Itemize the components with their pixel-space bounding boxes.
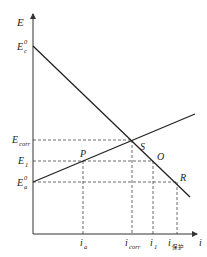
svg-text:a: a — [24, 183, 27, 190]
svg-text:a: a — [84, 243, 87, 250]
x-label-ia: i a — [80, 237, 87, 250]
svg-text:i: i — [125, 237, 128, 248]
x-label-iprot: i 保护 — [168, 237, 184, 251]
y-axis-label: E — [16, 16, 24, 28]
svg-text:corr: corr — [19, 140, 31, 147]
point-o-label: O — [157, 151, 164, 162]
cathodic-polarization-line — [33, 46, 190, 197]
svg-text:corr: corr — [129, 243, 141, 250]
svg-text:1: 1 — [25, 161, 28, 168]
svg-text:i: i — [80, 237, 83, 248]
polarization-diagram: E i E c 0 E corr E 1 E a 0 i a i corr i … — [0, 0, 207, 257]
point-s-label: S — [140, 141, 145, 152]
svg-text:保护: 保护 — [172, 243, 184, 251]
svg-text:i: i — [150, 237, 153, 248]
point-r-label: R — [179, 172, 186, 183]
x-axis-label: i — [199, 237, 202, 248]
y-label-ea0: E a 0 — [16, 174, 28, 190]
svg-text:i: i — [168, 237, 171, 248]
x-label-icorr: i corr — [125, 237, 141, 250]
x-label-i1: i 1 — [150, 237, 157, 250]
y-label-ecorr: E corr — [11, 134, 31, 147]
svg-text:E: E — [16, 177, 23, 188]
svg-text:1: 1 — [154, 243, 157, 250]
y-label-e1: E 1 — [17, 155, 28, 168]
svg-text:E: E — [17, 155, 24, 166]
point-p-label: P — [79, 148, 86, 159]
svg-text:0: 0 — [24, 174, 28, 181]
y-label-ec0: E c 0 — [16, 38, 28, 54]
svg-text:E: E — [11, 134, 18, 145]
svg-text:E: E — [16, 41, 23, 52]
svg-text:0: 0 — [24, 38, 28, 45]
guide-lines — [33, 140, 177, 234]
svg-text:c: c — [24, 47, 27, 54]
